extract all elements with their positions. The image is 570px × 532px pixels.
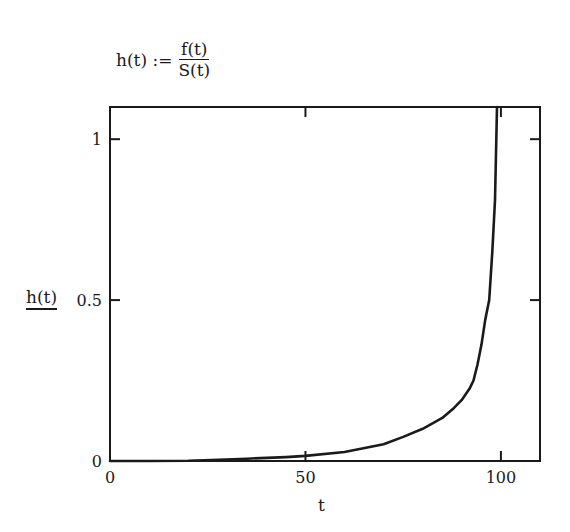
- x-axis-label: t: [318, 495, 325, 515]
- x-tick-label: 100: [486, 468, 517, 487]
- x-tick-label: 50: [295, 468, 315, 487]
- plot-frame: [110, 107, 540, 461]
- hazard-plot: 05010000.51: [0, 0, 570, 532]
- y-tick-label: 0: [92, 452, 102, 471]
- axis-ticks: [110, 107, 540, 461]
- axis-tick-labels: 05010000.51: [77, 130, 517, 487]
- y-axis-label: h(t): [26, 287, 57, 310]
- y-tick-label: 1: [92, 130, 102, 149]
- x-tick-label: 0: [105, 468, 115, 487]
- h-curve: [110, 107, 497, 461]
- y-tick-label: 0.5: [77, 291, 102, 310]
